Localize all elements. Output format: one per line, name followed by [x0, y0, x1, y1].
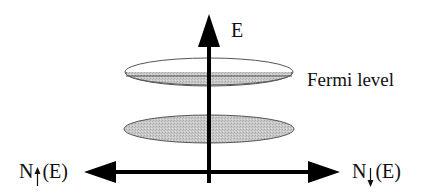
spin-up-dos-suffix: (E)	[42, 160, 68, 182]
dos-axis	[84, 161, 340, 183]
spin-down-dos-label: N(E)	[352, 161, 401, 181]
right-arrowhead	[308, 161, 340, 183]
energy-axis-label: E	[231, 20, 243, 40]
energy-axis	[198, 14, 220, 183]
left-arrowhead	[84, 161, 116, 183]
spin-down-dos-prefix: N	[352, 160, 366, 182]
spin-up-dos-prefix: N	[19, 160, 33, 182]
band-diagram: E Fermi level N(E) N(E)	[0, 0, 425, 194]
spin-up-dos-label: N(E)	[19, 161, 68, 181]
spin-up-arrow-icon	[33, 161, 42, 181]
spin-down-arrow-icon	[366, 161, 375, 181]
fermi-level-label: Fermi level	[307, 70, 394, 89]
spin-down-dos-suffix: (E)	[375, 160, 401, 182]
